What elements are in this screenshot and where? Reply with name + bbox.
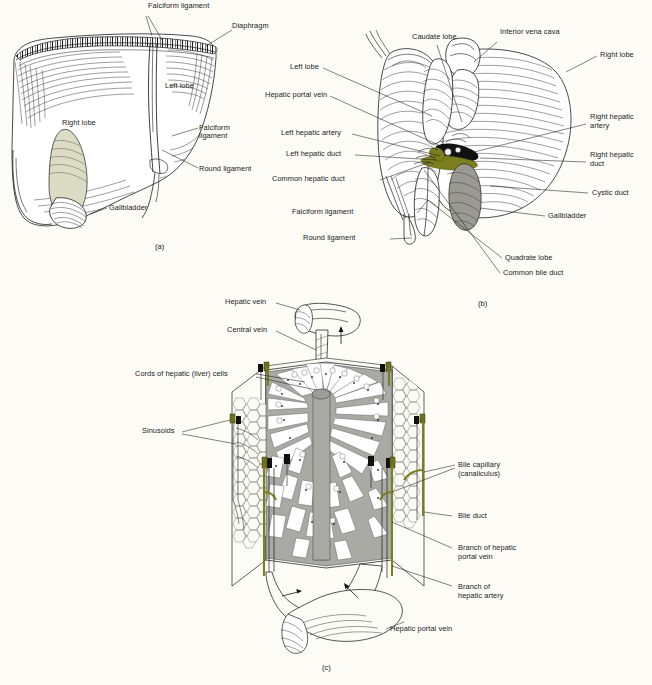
label-b-left-hepatic-artery: Left hepatic artery <box>281 129 341 138</box>
label-c-cords-of-hepatic-cells: Cords of hepatic (liver) cells <box>135 370 228 379</box>
liver-anatomy-figure: Falciform ligament Diaphragm Left lobe R… <box>0 0 652 685</box>
label-b-quadrate-lobe: Quadrate lobe <box>505 254 553 263</box>
label-a-gallbladder: Gallbladder <box>109 204 147 213</box>
label-b-left-lobe: Left lobe <box>290 63 319 72</box>
label-c-sinusoids: Sinusoids <box>142 427 175 436</box>
label-b-right-hepatic-artery-line2: artery <box>590 122 609 131</box>
panel-a-caption: (a) <box>155 242 164 251</box>
label-c-branch-hepatic-artery-line2: hepatic artery <box>458 592 503 601</box>
label-a-falciform-ligament-line2: ligament <box>199 132 227 141</box>
label-c-central-vein: Central vein <box>227 326 267 335</box>
label-c-branch-hepatic-portal-line2: portal vein <box>458 553 493 562</box>
label-a-diaphragm: Diaphragm <box>232 22 269 31</box>
label-a-round-ligament: Round ligament <box>199 165 251 174</box>
label-b-hepatic-portal-vein: Hepatic portal vein <box>265 91 327 100</box>
label-a-left-lobe: Left lobe <box>165 82 194 91</box>
label-a-falciform-ligament: Falciform ligament <box>148 2 209 11</box>
label-c-bile-duct: Bile duct <box>458 512 487 521</box>
label-c-bile-capillary-line2: (canaliculus) <box>458 470 500 479</box>
label-b-right-lobe: Right lobe <box>600 51 634 60</box>
label-b-gallbladder: Gallbladder <box>548 212 586 221</box>
label-a-right-lobe: Right lobe <box>62 119 96 128</box>
panel-b-caption: (b) <box>478 299 487 308</box>
label-b-round-ligament: Round ligament <box>303 234 355 243</box>
label-b-right-hepatic-duct-line2: duct <box>590 160 604 169</box>
label-b-common-bile-duct: Common bile duct <box>503 269 563 278</box>
label-b-caudate-lobe: Caudate lobe <box>412 33 457 42</box>
figure-canvas <box>0 0 652 685</box>
label-b-left-hepatic-duct: Left hepatic duct <box>286 150 341 159</box>
label-b-common-hepatic-duct: Common hepatic duct <box>272 175 345 184</box>
label-b-falciform-ligament: Falciform ligament <box>292 208 353 217</box>
label-b-cystic-duct: Cystic duct <box>592 189 629 198</box>
label-b-inferior-vena-cava: Inferior vena cava <box>500 28 560 37</box>
label-c-hepatic-vein: Hepatic vein <box>225 298 266 307</box>
panel-c-caption: (c) <box>322 663 331 672</box>
label-c-hepatic-portal-vein: Hepatic portal vein <box>390 625 452 634</box>
